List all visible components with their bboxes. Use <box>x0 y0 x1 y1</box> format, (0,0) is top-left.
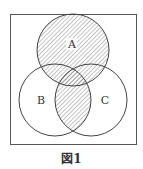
venn-diagram: A B C <box>0 0 143 169</box>
figure-caption: 図1 <box>0 149 143 166</box>
label-a: A <box>67 38 77 51</box>
label-b: B <box>37 94 45 107</box>
label-c: C <box>101 94 109 107</box>
